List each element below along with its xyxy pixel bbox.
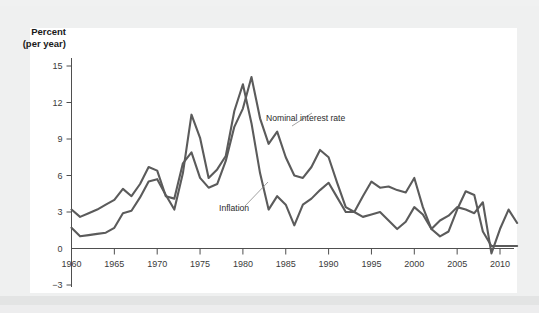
y-tick-label: 0 — [57, 244, 62, 254]
x-tick-label: 1975 — [190, 259, 210, 269]
line-chart: Percent (per year) −303691215 1960196519… — [0, 0, 539, 313]
x-tick-label: 2010 — [490, 259, 510, 269]
y-tick-label: 3 — [57, 207, 62, 217]
x-tick-label: 1985 — [276, 259, 296, 269]
y-axis-ticks: −303691215 — [52, 61, 71, 290]
y-tick-label: 9 — [57, 134, 62, 144]
x-tick-label: 1980 — [233, 259, 253, 269]
series-label-nominal: Nominal interest rate — [266, 113, 346, 123]
x-tick-label: 2000 — [404, 259, 424, 269]
y-tick-label: 15 — [52, 61, 62, 71]
series-group — [72, 77, 518, 253]
y-tick-label: 12 — [52, 98, 62, 108]
x-tick-label: 1970 — [147, 259, 167, 269]
y-tick-label: −3 — [52, 280, 62, 290]
x-tick-label: 1990 — [319, 259, 339, 269]
figure-container: Percent (per year) −303691215 1960196519… — [0, 0, 539, 313]
x-tick-label: 2005 — [447, 259, 467, 269]
x-tick-label: 1995 — [361, 259, 381, 269]
series-line-nominal-interest-rate — [72, 77, 518, 246]
series-label-inflation: Inflation — [219, 203, 249, 213]
y-axis-title-line1: Percent — [31, 26, 67, 37]
x-tick-label: 1960 — [61, 259, 81, 269]
x-axis-ticks: 1960196519701975198019851990199520002005… — [61, 249, 510, 269]
y-axis-title-line2: (per year) — [23, 38, 66, 49]
x-tick-label: 1965 — [104, 259, 124, 269]
y-tick-label: 6 — [57, 171, 62, 181]
